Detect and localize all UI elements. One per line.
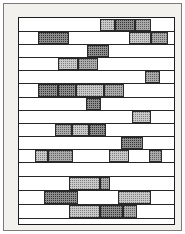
task-block (89, 124, 106, 136)
task-block (100, 177, 111, 190)
chart-row (19, 19, 174, 32)
task-block (86, 98, 102, 110)
task-block (38, 32, 69, 44)
task-block (100, 205, 123, 218)
task-block (123, 205, 137, 218)
chart-row (19, 163, 174, 177)
task-block (132, 111, 151, 123)
task-block (121, 137, 143, 149)
task-block (58, 58, 78, 70)
task-block (38, 84, 58, 97)
task-block (109, 150, 129, 162)
chart-row (19, 111, 174, 124)
task-block (69, 205, 100, 218)
page-frame (3, 3, 182, 231)
task-block (35, 150, 49, 162)
task-block (149, 150, 161, 162)
chart-row (19, 98, 174, 111)
task-block (58, 84, 77, 97)
task-block (118, 191, 151, 204)
task-block (100, 19, 116, 31)
chart-row (19, 45, 174, 58)
chart-plot-area (18, 17, 175, 225)
task-block (44, 191, 78, 204)
task-block (76, 84, 104, 97)
task-block (48, 150, 73, 162)
task-block (87, 45, 109, 57)
task-block (104, 84, 124, 97)
task-block (115, 19, 135, 31)
task-block (72, 124, 89, 136)
schedule-chart-figure (0, 0, 185, 234)
chart-row (19, 191, 174, 205)
task-block (55, 124, 72, 136)
chart-row (19, 32, 174, 45)
task-block (78, 58, 98, 70)
task-block (145, 71, 161, 83)
task-block (135, 19, 151, 31)
task-block (69, 177, 100, 190)
chart-row (19, 150, 174, 163)
chart-row (19, 84, 174, 98)
task-block (129, 32, 151, 44)
chart-row (19, 58, 174, 71)
chart-row (19, 177, 174, 191)
chart-row (19, 205, 174, 219)
chart-row (19, 137, 174, 150)
task-block (151, 32, 168, 44)
chart-row (19, 71, 174, 84)
chart-row (19, 124, 174, 137)
